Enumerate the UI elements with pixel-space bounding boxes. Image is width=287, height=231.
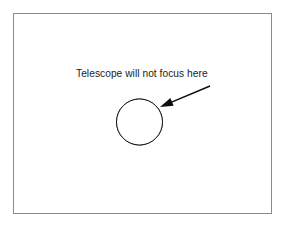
celestial-body-outline (117, 99, 163, 145)
pointer-arrow-shaft (169, 86, 210, 103)
annotation-label: Telescope will not focus here (76, 68, 208, 79)
figure-canvas: Telescope will not focus here (0, 0, 287, 231)
pointer-arrow-head (160, 98, 174, 107)
diagram-svg: Telescope will not focus here (0, 0, 287, 231)
